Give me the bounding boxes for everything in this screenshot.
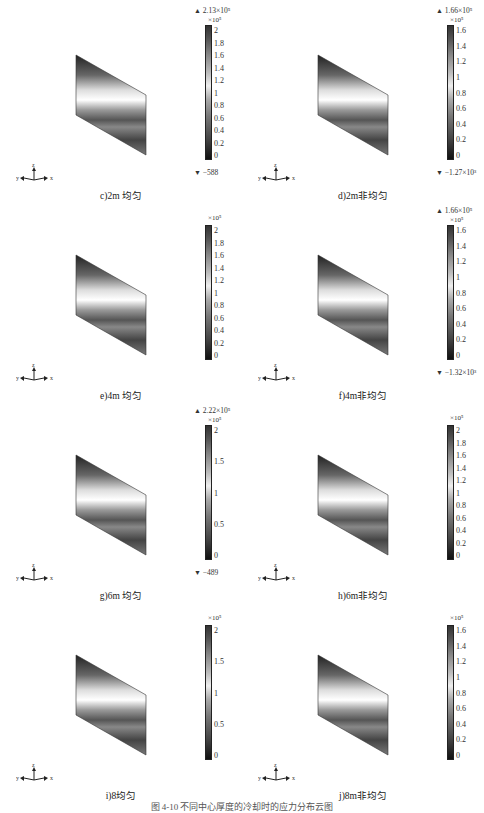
svg-text:z: z — [274, 362, 277, 368]
colorbar-tick: 0.8 — [456, 502, 466, 510]
colorbar-tick: 0.8 — [214, 102, 224, 110]
colorbar-tick: 0.4 — [456, 527, 466, 535]
colorbar-tick: 0.5 — [214, 521, 224, 529]
stress-contour-plate — [318, 255, 386, 330]
colorbar-tick: 1.4 — [456, 465, 466, 473]
panel-f: zyx▲ 1.66×10⁵×10⁵1.61.41.210.80.60.40.20… — [242, 200, 484, 400]
colorbar-min-label: ▼ −489 — [194, 568, 218, 577]
colorbar-tick: 0.8 — [456, 290, 466, 298]
colorbar-tick: 1.6 — [456, 227, 466, 235]
colorbar-tick: 1.2 — [456, 658, 466, 666]
colorbar-tick: 0.8 — [214, 302, 224, 310]
svg-text:x: x — [50, 775, 53, 781]
colorbar-unit: ×10⁵ — [208, 214, 221, 222]
svg-text:x: x — [292, 375, 295, 381]
colorbar — [205, 225, 212, 360]
colorbar-tick: 2 — [214, 227, 218, 235]
svg-text:z: z — [32, 762, 35, 768]
colorbar-tick: 2 — [456, 427, 460, 435]
svg-text:x: x — [50, 575, 53, 581]
colorbar-tick: 0.6 — [456, 705, 466, 713]
colorbar-tick: 1.5 — [214, 658, 224, 666]
svg-text:z: z — [274, 562, 277, 568]
colorbar-tick: 1.6 — [456, 627, 466, 635]
stress-contour-plate — [318, 655, 386, 730]
colorbar-tick: 1.6 — [214, 52, 224, 60]
svg-text:y: y — [16, 775, 19, 781]
axis-triad-icon: zyx — [258, 760, 298, 784]
colorbar-tick: 0.4 — [214, 327, 224, 335]
panel-c: zyx▲ 2.13×10⁵×10⁵21.81.61.41.210.80.60.4… — [0, 0, 242, 200]
stress-contour-plate — [76, 55, 144, 130]
svg-text:y: y — [16, 175, 19, 181]
colorbar — [447, 625, 454, 760]
svg-text:y: y — [258, 175, 261, 181]
axis-triad-icon: zyx — [258, 160, 298, 184]
svg-text:z: z — [32, 562, 35, 568]
colorbar-tick: 0.6 — [456, 105, 466, 113]
colorbar-tick: 1.4 — [456, 243, 466, 251]
colorbar-max-label: ▲ 2.13×10⁵ — [194, 6, 230, 15]
panel-j: zyx×10⁵1.61.41.210.80.60.40.20j)8m非均匀 — [242, 600, 484, 800]
colorbar-tick: 1.4 — [214, 65, 224, 73]
colorbar-min-label: ▼ −588 — [194, 168, 218, 177]
stress-contour-plate — [76, 255, 144, 330]
svg-text:z: z — [32, 162, 35, 168]
svg-text:z: z — [274, 162, 277, 168]
colorbar-tick: 0.6 — [456, 305, 466, 313]
colorbar-tick: 1.8 — [214, 40, 224, 48]
colorbar-tick: 1.2 — [214, 77, 224, 85]
panel-i: zyx×10⁵21.510.50i)8均匀 — [0, 600, 242, 800]
colorbar-tick: 1 — [456, 490, 460, 498]
colorbar-tick: 0.4 — [456, 321, 466, 329]
colorbar-tick: 1.2 — [456, 477, 466, 485]
axis-triad-icon: zyx — [16, 760, 56, 784]
colorbar-tick: 0 — [456, 152, 460, 160]
colorbar — [447, 225, 454, 360]
colorbar-unit: ×10⁵ — [450, 16, 463, 24]
svg-text:x: x — [292, 575, 295, 581]
svg-text:y: y — [258, 775, 261, 781]
colorbar-tick: 1 — [214, 90, 218, 98]
colorbar-tick: 0 — [456, 352, 460, 360]
colorbar-tick: 0.5 — [214, 721, 224, 729]
colorbar-tick: 0.4 — [214, 127, 224, 135]
colorbar-tick: 0.4 — [456, 121, 466, 129]
colorbar-tick: 1.2 — [214, 277, 224, 285]
colorbar-tick: 1.6 — [456, 27, 466, 35]
colorbar-tick: 0.8 — [456, 90, 466, 98]
colorbar-tick: 0.4 — [456, 721, 466, 729]
colorbar-tick: 2 — [214, 427, 218, 435]
colorbar-tick: 1.2 — [456, 258, 466, 266]
panel-h: zyx×10⁵21.81.61.41.210.80.60.40.20h)6m非均… — [242, 400, 484, 600]
colorbar-tick: 0.2 — [456, 136, 466, 144]
colorbar — [447, 25, 454, 160]
colorbar-tick: 0.2 — [456, 540, 466, 548]
axis-triad-icon: zyx — [16, 360, 56, 384]
axis-triad-icon: zyx — [258, 560, 298, 584]
svg-text:x: x — [292, 775, 295, 781]
colorbar-max-label: ▲ 1.66×10⁵ — [436, 206, 472, 215]
colorbar-tick: 0.2 — [456, 336, 466, 344]
colorbar-tick: 1.4 — [214, 265, 224, 273]
colorbar — [447, 425, 454, 560]
panel-g: zyx▲ 2.22×10⁵×10⁵21.510.50▼ −489g)6m 均匀 — [0, 400, 242, 600]
colorbar-tick: 2 — [214, 627, 218, 635]
colorbar-unit: ×10⁵ — [208, 614, 221, 622]
svg-text:x: x — [292, 175, 295, 181]
svg-text:z: z — [32, 362, 35, 368]
svg-text:y: y — [16, 375, 19, 381]
figure-caption: 图 4-10 不同中心厚度的冷却时的应力分布云图 — [0, 800, 484, 813]
colorbar-unit: ×10⁵ — [450, 614, 463, 622]
stress-contour-plate — [76, 455, 144, 530]
colorbar-tick: 0.2 — [456, 736, 466, 744]
colorbar-tick: 0.2 — [214, 140, 224, 148]
panel-d: zyx▲ 1.66×10⁵×10⁵1.61.41.210.80.60.40.20… — [242, 0, 484, 200]
colorbar-unit: ×10⁵ — [208, 416, 221, 424]
stress-contour-plate — [76, 655, 144, 730]
colorbar-tick: 1 — [214, 490, 218, 498]
colorbar — [205, 625, 212, 760]
svg-text:y: y — [258, 375, 261, 381]
colorbar-unit: ×10⁵ — [450, 414, 463, 422]
colorbar-tick: 1 — [456, 74, 460, 82]
